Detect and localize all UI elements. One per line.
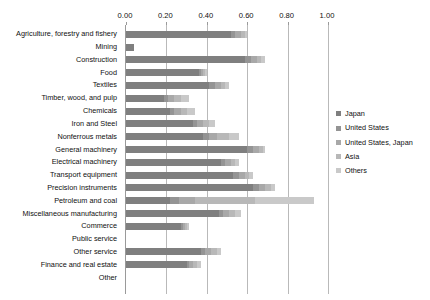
bar-segment bbox=[179, 197, 195, 204]
legend-item[interactable]: Asia bbox=[336, 153, 428, 161]
bar-stack bbox=[126, 31, 247, 38]
bar-stack bbox=[126, 261, 201, 268]
category-label: Petroleum and coal bbox=[54, 197, 117, 204]
bar-stack bbox=[126, 56, 265, 63]
category-label: Food bbox=[100, 69, 117, 76]
bar-segment bbox=[217, 133, 229, 140]
category-label: Agriculture, forestry and fishery bbox=[16, 30, 117, 37]
category-label: Construction bbox=[76, 56, 117, 63]
category-label: General machinery bbox=[55, 146, 117, 153]
category-label: Transport equipment bbox=[50, 171, 117, 178]
bar-segment bbox=[126, 133, 203, 140]
legend-swatch-icon bbox=[336, 168, 341, 173]
gridline bbox=[247, 25, 248, 294]
bar-segment bbox=[126, 44, 134, 51]
bar-stack bbox=[126, 248, 221, 255]
gridline bbox=[328, 25, 329, 294]
x-axis-tick-labels: 0.000.200.400.600.801.00 bbox=[0, 11, 430, 23]
category-label: Timber, wood, and pulp bbox=[41, 94, 117, 101]
legend-item[interactable]: United States bbox=[336, 124, 428, 132]
category-label: Other service bbox=[74, 248, 117, 255]
bar-stack bbox=[126, 223, 189, 230]
bar-stack bbox=[126, 82, 229, 89]
bar-segment bbox=[126, 146, 247, 153]
bar-segment bbox=[126, 248, 201, 255]
category-label: Nonferrous metals bbox=[57, 133, 117, 140]
category-label: Public service bbox=[72, 235, 117, 242]
x-tick-label: 0.00 bbox=[118, 11, 133, 20]
bar-segment bbox=[126, 95, 164, 102]
category-label: Mining bbox=[96, 43, 118, 50]
bar-segment bbox=[209, 120, 215, 127]
bar-segment bbox=[126, 31, 231, 38]
legend-item[interactable]: Japan bbox=[336, 110, 428, 118]
legend-label: United States bbox=[345, 124, 389, 132]
bar-segment bbox=[126, 69, 199, 76]
bar-segment bbox=[126, 210, 219, 217]
category-label: Finance and real estate bbox=[41, 261, 117, 268]
x-tick-label: 0.20 bbox=[158, 11, 173, 20]
bar-segment bbox=[126, 223, 181, 230]
stacked-bar-chart: 0.000.200.400.600.801.00 Agriculture, fo… bbox=[0, 0, 430, 300]
bar-segment bbox=[225, 82, 229, 89]
category-label: Textiles bbox=[93, 81, 117, 88]
bar-segment bbox=[229, 133, 239, 140]
legend-item[interactable]: United States, Japan bbox=[336, 139, 428, 147]
bar-stack bbox=[126, 172, 253, 179]
x-tick-mark bbox=[166, 22, 167, 25]
bar-segment bbox=[126, 261, 187, 268]
legend-swatch-icon bbox=[336, 111, 341, 116]
category-label: Commerce bbox=[81, 222, 117, 229]
legend-label: Japan bbox=[345, 110, 365, 118]
category-label: Chemicals bbox=[83, 107, 117, 114]
bar-segment bbox=[126, 108, 170, 115]
bar-stack bbox=[126, 133, 239, 140]
bar-segment bbox=[126, 159, 221, 166]
bar-segment bbox=[126, 197, 170, 204]
bar-stack bbox=[126, 159, 239, 166]
bar-segment bbox=[126, 56, 245, 63]
bar-segment bbox=[205, 69, 207, 76]
x-tick-label: 0.60 bbox=[239, 11, 254, 20]
bar-segment bbox=[181, 95, 189, 102]
legend-label: United States, Japan bbox=[345, 139, 413, 147]
legend-swatch-icon bbox=[336, 140, 341, 145]
x-tick-label: 0.80 bbox=[279, 11, 294, 20]
bar-segment bbox=[126, 172, 233, 179]
category-label: Other bbox=[99, 274, 117, 281]
bar-segment bbox=[187, 223, 189, 230]
bar-segment bbox=[126, 120, 193, 127]
bar-segment bbox=[235, 159, 239, 166]
legend-swatch-icon bbox=[336, 154, 341, 159]
bar-segment bbox=[126, 82, 209, 89]
bar-segment bbox=[235, 210, 241, 217]
bar-stack bbox=[126, 44, 134, 51]
gridline bbox=[288, 25, 289, 294]
bar-segment bbox=[209, 133, 217, 140]
y-axis-category-labels: Agriculture, forestry and fisheryMiningC… bbox=[0, 25, 120, 295]
bar-segment bbox=[195, 197, 256, 204]
x-tick-mark bbox=[328, 22, 329, 25]
bar-segment bbox=[245, 31, 247, 38]
legend-label: Others bbox=[345, 167, 367, 175]
bar-stack bbox=[126, 69, 207, 76]
x-tick-label: 1.00 bbox=[320, 11, 335, 20]
bar-segment bbox=[187, 108, 195, 115]
x-tick-mark bbox=[207, 22, 208, 25]
bar-segment bbox=[249, 172, 253, 179]
bar-stack bbox=[126, 108, 195, 115]
category-label: Electrical machinery bbox=[52, 158, 117, 165]
x-tick-mark bbox=[247, 22, 248, 25]
x-tick-label: 0.40 bbox=[198, 11, 213, 20]
bar-stack bbox=[126, 146, 265, 153]
bar-stack bbox=[126, 197, 314, 204]
bar-stack bbox=[126, 95, 189, 102]
category-label: Miscellaneous manufacturing bbox=[22, 210, 117, 217]
bar-segment bbox=[217, 248, 221, 255]
legend-label: Asia bbox=[345, 153, 359, 161]
bar-segment bbox=[263, 146, 265, 153]
legend-item[interactable]: Others bbox=[336, 167, 428, 175]
chart-legend: JapanUnited StatesUnited States, JapanAs… bbox=[336, 110, 428, 181]
bar-segment bbox=[126, 184, 253, 191]
bar-segment bbox=[271, 184, 275, 191]
